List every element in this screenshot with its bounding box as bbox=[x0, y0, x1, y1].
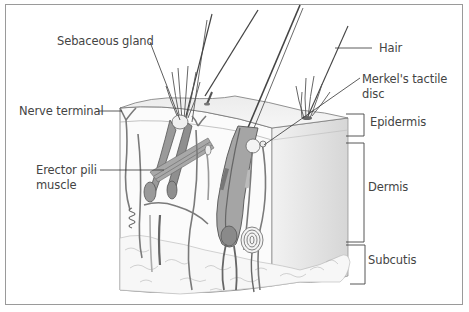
label-epidermis: Epidermis bbox=[370, 115, 426, 129]
bracket-epidermis bbox=[346, 114, 364, 136]
label-nerve-terminal: Nerve terminal bbox=[19, 104, 104, 118]
label-merkel-line2: disc bbox=[362, 87, 384, 101]
label-erector-pili-line1: Erector pili bbox=[36, 163, 97, 177]
label-sebaceous-gland: Sebaceous gland bbox=[57, 34, 154, 48]
label-dermis: Dermis bbox=[368, 180, 408, 194]
label-erector-pili-line2: muscle bbox=[36, 178, 76, 192]
label-hair: Hair bbox=[379, 41, 402, 55]
sebaceous-gland-shape bbox=[172, 115, 188, 129]
bracket-dermis bbox=[346, 143, 364, 242]
label-subcutis: Subcutis bbox=[368, 253, 416, 267]
label-merkel-line1: Merkel's tactile bbox=[362, 72, 447, 86]
